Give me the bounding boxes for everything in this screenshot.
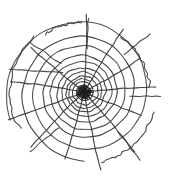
- spider-web-drawing: [0, 0, 172, 183]
- hub-core: [82, 90, 86, 94]
- spider-web-figure: Spider web line drawing: [0, 0, 172, 183]
- anchor-right: [130, 96, 161, 97]
